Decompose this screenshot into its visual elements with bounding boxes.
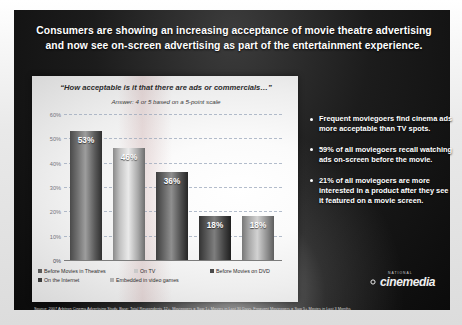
legend-item-0: Before Movies in Theatres — [38, 268, 106, 274]
bullet-dot-icon — [310, 118, 313, 121]
legend-label-1: On TV — [140, 268, 155, 274]
bar-value-label: 46% — [113, 153, 145, 162]
bullet-dot-icon — [310, 179, 313, 182]
chart-panel: “How acceptable is it that there are ads… — [32, 76, 298, 302]
gridline: 60% — [64, 114, 282, 115]
key-findings-list: Frequent moviegoers find cinema ads more… — [310, 114, 454, 217]
source-note: Source: 2007 Arbitron Cinema Advertising… — [34, 306, 448, 311]
list-item: 59% of all moviegoers recall watching ad… — [310, 145, 454, 166]
legend-swatch-icon — [38, 269, 42, 273]
slide-title: Consumers are showing an increasing acce… — [36, 24, 432, 53]
bullet-text-1: 59% of all moviegoers recall watching ad… — [319, 145, 452, 164]
y-axis-tick-label: 20% — [50, 209, 61, 215]
list-item: 21% of all moviegoers are more intereste… — [310, 176, 454, 207]
bar-value-label: 18% — [242, 221, 274, 230]
bar-0: 53% — [70, 131, 102, 260]
y-axis-tick-label: 50% — [50, 136, 61, 142]
bar-value-label: 36% — [156, 177, 188, 186]
y-axis-tick-label: 30% — [50, 185, 61, 191]
legend-label-4: Embedded in video games — [116, 277, 179, 283]
y-axis-tick-label: 60% — [50, 112, 61, 118]
legend-swatch-icon — [110, 278, 114, 282]
legend-row-1: Before Movies in Theatres On TV Before M… — [38, 268, 292, 277]
bar-4: 18% — [242, 216, 274, 260]
list-item: Frequent moviegoers find cinema ads more… — [310, 114, 454, 135]
bar-fill — [113, 148, 145, 260]
legend-label-2: Before Movies on DVD — [216, 268, 270, 274]
bar-1: 46% — [113, 148, 145, 260]
legend-item-4: Embedded in video games — [110, 277, 179, 283]
chart-title: “How acceptable is it that there are ads… — [42, 83, 290, 92]
bar-value-label: 18% — [199, 221, 231, 230]
slide-title-line-2: and now see on-screen advertising as par… — [36, 39, 432, 54]
cinemedia-logo: NATIONAL cinemedia — [366, 272, 448, 294]
bullet-text-0: Frequent moviegoers find cinema ads more… — [319, 114, 452, 133]
y-axis-tick-label: 40% — [50, 161, 61, 167]
legend-item-2: Before Movies on DVD — [210, 268, 270, 274]
y-axis-tick-label: 0% — [53, 258, 61, 264]
legend-row-2: On the Internet Embedded in video games — [38, 277, 292, 286]
slide-body: Consumers are showing an increasing acce… — [14, 10, 450, 310]
legend-item-3: On the Internet — [38, 277, 79, 283]
logo-wordmark: cinemedia — [380, 275, 435, 289]
cinemedia-mark-icon — [366, 274, 381, 290]
slide-title-line-1: Consumers are showing an increasing acce… — [36, 25, 431, 36]
plot-area: 0%10%20%30%40%50%60%53%46%36%18%18% — [64, 114, 282, 260]
legend-item-1: On TV — [134, 268, 155, 274]
bar-fill — [70, 131, 102, 260]
y-axis-tick-label: 10% — [50, 234, 61, 240]
presentation-slide: Consumers are showing an increasing acce… — [0, 0, 462, 325]
legend-label-0: Before Movies in Theatres — [44, 268, 106, 274]
legend-swatch-icon — [210, 269, 214, 273]
chart-subtitle: Answer: 4 or 5 based on a 5-point scale — [42, 98, 290, 105]
legend-swatch-icon — [134, 269, 138, 273]
bar-2: 36% — [156, 172, 188, 260]
chart-legend: Before Movies in Theatres On TV Before M… — [38, 268, 292, 286]
bar-3: 18% — [199, 216, 231, 260]
bar-value-label: 53% — [70, 136, 102, 145]
bullet-dot-icon — [310, 148, 313, 151]
legend-label-3: On the Internet — [44, 277, 79, 283]
legend-swatch-icon — [38, 278, 42, 282]
gridline: 0% — [64, 260, 282, 261]
bullet-text-2: 21% of all moviegoers are more intereste… — [319, 176, 448, 206]
